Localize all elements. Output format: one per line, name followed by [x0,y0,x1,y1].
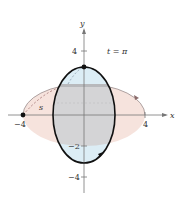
point-on-y-axis [82,65,87,70]
x-tick-label-4: 4 [143,120,148,129]
y-tick-label-neg4: −4 [68,173,80,182]
y-axis-label: y [79,19,85,28]
y-tick-label-4: 4 [72,47,77,56]
x-axis-arrow [162,113,168,117]
ellipse-diagram: y x 4 −2 −4 −4 4 t = π s [0,0,180,203]
y-axis-arrow [82,28,86,34]
x-axis-label: x [170,111,175,120]
point-on-x-axis [21,113,26,118]
arc-label-s: s [39,103,43,112]
y-tick-label-neg2: −2 [68,142,80,151]
parameter-label: t = π [107,47,128,56]
x-tick-label-neg4: −4 [14,120,26,129]
